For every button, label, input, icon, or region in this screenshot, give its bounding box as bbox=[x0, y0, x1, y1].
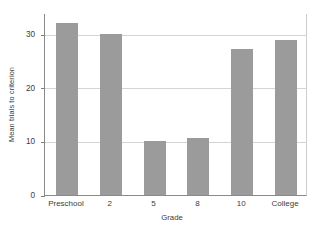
x-category-label-5: 5 bbox=[132, 199, 176, 208]
y-axis-title: Mean trials to criterion bbox=[6, 18, 18, 190]
y-tick-label-20: 20 bbox=[0, 84, 35, 93]
x-category-label-10: 10 bbox=[219, 199, 263, 208]
x-category-label-college: College bbox=[263, 199, 307, 208]
bar-10 bbox=[231, 49, 253, 195]
plot-area bbox=[44, 14, 307, 196]
x-category-label-8: 8 bbox=[176, 199, 220, 208]
bar-college bbox=[275, 40, 297, 195]
bar-8 bbox=[187, 138, 209, 195]
bar-series bbox=[45, 14, 306, 195]
bar-chart-figure: Mean trials to criterion 0102030 Prescho… bbox=[0, 0, 316, 232]
bar-5 bbox=[144, 141, 166, 195]
bar-preschool bbox=[56, 23, 78, 195]
bar-2 bbox=[100, 34, 122, 195]
x-axis-title-text: Grade bbox=[161, 213, 183, 222]
y-axis-title-text: Mean trials to criterion bbox=[8, 66, 17, 141]
y-tick-label-10: 10 bbox=[0, 137, 35, 146]
y-tick-label-0: 0 bbox=[0, 191, 35, 200]
x-axis-title: Grade bbox=[36, 213, 308, 222]
y-tick-label-30: 30 bbox=[0, 30, 35, 39]
x-category-label-preschool: Preschool bbox=[44, 199, 88, 208]
x-category-label-2: 2 bbox=[88, 199, 132, 208]
y-tick-0 bbox=[41, 196, 45, 197]
